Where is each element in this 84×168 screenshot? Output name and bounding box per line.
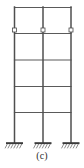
support-base-plate — [63, 142, 80, 144]
structural-frame-diagram — [0, 0, 84, 168]
figure-caption: (c) — [0, 150, 84, 162]
support-base-plate — [35, 142, 52, 144]
hinge-middle-icon — [41, 28, 45, 32]
support-base-plate — [6, 142, 23, 144]
figure-container: (c) — [0, 0, 84, 168]
hinge-left-icon — [13, 28, 17, 32]
hinge-right-icon — [69, 28, 73, 32]
